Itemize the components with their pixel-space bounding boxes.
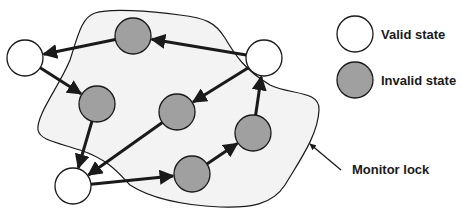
legend-valid-icon (337, 16, 373, 52)
invalid-state-node-B (115, 18, 151, 54)
monitor-lock-label: Monitor lock (352, 162, 430, 177)
legend-invalid-icon (337, 62, 373, 98)
legend-valid-label: Valid state (381, 27, 445, 42)
valid-state-node-A (7, 40, 43, 76)
monitor-lock-annotation: Monitor lock (310, 144, 430, 177)
valid-state-node-C (246, 40, 282, 76)
invalid-state-node-D (79, 86, 115, 122)
invalid-state-node-F (235, 115, 271, 151)
valid-state-node-G (55, 168, 91, 204)
legend: Valid state Invalid state (337, 16, 456, 98)
monitor-lock-pointer (310, 144, 341, 170)
state-diagram: Valid state Invalid state Monitor lock (0, 0, 461, 219)
invalid-state-node-H (174, 156, 210, 192)
invalid-state-node-E (159, 94, 195, 130)
legend-invalid-label: Invalid state (381, 73, 456, 88)
